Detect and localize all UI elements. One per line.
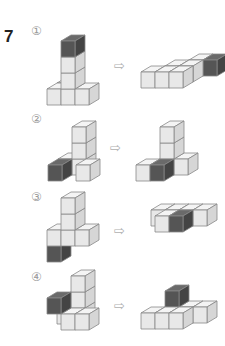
arrow-right-icon: ⇨ [114, 298, 125, 313]
arrow-right-icon: ⇨ [114, 223, 125, 238]
item-label-1: ① [31, 24, 42, 38]
question-number: 7 [4, 27, 13, 47]
arrow-right-icon: ⇨ [110, 140, 121, 155]
shaded-cube [48, 159, 72, 181]
item-label-2: ② [31, 112, 42, 126]
item-label-4: ④ [31, 270, 42, 284]
figure-4-after [0, 0, 1, 1]
arrow-right-icon: ⇨ [114, 58, 125, 73]
item-label-3: ③ [31, 190, 42, 204]
